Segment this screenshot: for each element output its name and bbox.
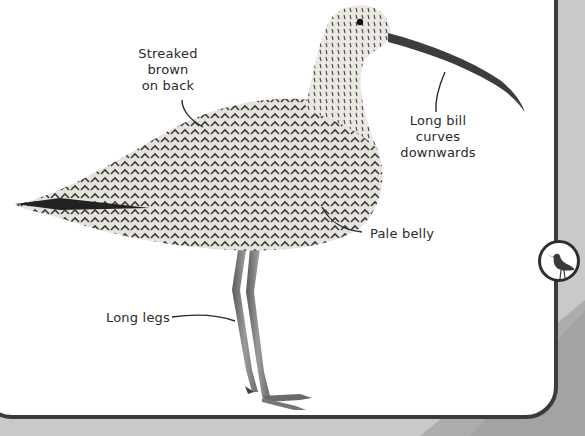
label-text: Pale belly: [370, 226, 434, 241]
label-streaked-back: Streaked brown on back: [118, 46, 218, 94]
curlew-illustration: [0, 0, 585, 436]
label-line: on back: [118, 78, 218, 94]
label-long-legs: Long legs: [106, 310, 176, 326]
label-pale-belly: Pale belly: [370, 226, 450, 242]
label-text: Long legs: [106, 310, 170, 325]
label-line: downwards: [398, 145, 478, 161]
wader-bird-icon: [538, 240, 580, 282]
label-line: Long bill: [398, 113, 478, 129]
bird-legs: [232, 248, 312, 410]
label-line: Streaked brown: [118, 46, 218, 78]
bird-silhouette-icon: [541, 243, 577, 279]
label-line: curves: [398, 129, 478, 145]
label-long-bill: Long bill curves downwards: [398, 113, 478, 161]
